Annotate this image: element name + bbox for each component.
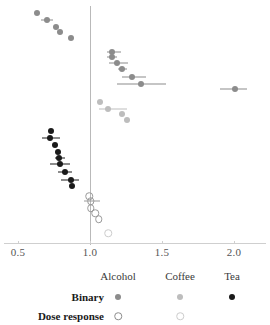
legend-column-alcohol: Alcohol <box>100 270 135 282</box>
legend-swatch-alcohol-dose-response <box>114 312 122 320</box>
marker-alcohol <box>109 54 115 60</box>
legend-swatch-alcohol-binary <box>115 294 121 300</box>
x-tick-2.0 <box>234 241 235 244</box>
legend-swatch-coffee-binary <box>177 294 183 300</box>
marker-tea <box>62 169 68 175</box>
legend-swatch-coffee-dose-response <box>176 312 184 320</box>
marker-tea <box>52 142 58 148</box>
marker-tea <box>57 161 63 167</box>
marker-tea <box>69 183 75 189</box>
marker-coffee <box>97 99 103 105</box>
marker-alcohol-dose-response <box>95 215 103 223</box>
marker-alcohol <box>34 10 40 16</box>
marker-tea <box>48 128 54 134</box>
legend-column-headers: AlcoholCoffeeTea <box>0 268 270 284</box>
x-tick-label-1.5: 1.5 <box>155 246 170 258</box>
legend-row-dose-response: Dose response <box>0 307 270 325</box>
marker-alcohol <box>44 17 50 23</box>
marker-alcohol <box>129 74 135 80</box>
marker-alcohol <box>68 35 74 41</box>
legend-column-coffee: Coffee <box>165 270 195 282</box>
marker-alcohol <box>119 66 125 72</box>
chart-legend: AlcoholCoffeeTea BinaryDose response <box>0 268 270 325</box>
forest-plot-canvas: 0.51.01.52.0 <box>0 0 270 245</box>
legend-swatch-tea-binary <box>229 294 235 300</box>
legend-column-tea: Tea <box>224 270 240 282</box>
confidence-interval-whisker <box>99 109 127 110</box>
marker-coffee-dose-response <box>104 229 112 237</box>
marker-alcohol <box>114 60 120 66</box>
x-axis-tick-labels: 0.51.01.52.0 <box>0 246 270 262</box>
legend-row-binary: Binary <box>0 288 270 306</box>
legend-row-label: Dose response <box>38 310 104 322</box>
x-tick-1.5 <box>162 241 163 244</box>
marker-alcohol <box>138 81 144 87</box>
x-tick-label-2.0: 2.0 <box>227 246 242 258</box>
marker-alcohol <box>232 86 238 92</box>
x-tick-0.5 <box>18 241 19 244</box>
x-axis-line <box>4 243 266 244</box>
marker-tea <box>47 135 53 141</box>
marker-alcohol <box>57 29 63 35</box>
legend-row-label: Binary <box>72 291 104 303</box>
marker-coffee <box>124 117 130 123</box>
x-tick-label-1.0: 1.0 <box>83 246 98 258</box>
marker-coffee <box>119 111 125 117</box>
marker-coffee <box>105 106 111 112</box>
x-tick-1.0 <box>90 241 91 244</box>
x-tick-label-0.5: 0.5 <box>11 246 26 258</box>
